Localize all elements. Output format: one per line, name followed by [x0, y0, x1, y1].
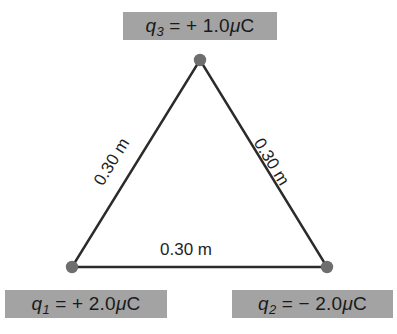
- vertex-dot-q1: [66, 261, 78, 273]
- charge-unit-mu-q1: μ: [116, 293, 127, 314]
- charge-equals-q3: =: [164, 15, 186, 36]
- charge-triangle-figure: q3 = + 1.0μC q1 = + 2.0μC q2 = − 2.0μC 0…: [0, 0, 397, 334]
- charge-subscript-q3: 3: [156, 24, 163, 39]
- charge-value-q1: + 2.0: [72, 293, 116, 314]
- charge-label-q2: q2 = − 2.0μC: [232, 290, 393, 318]
- charge-unit-c-q2: C: [353, 293, 367, 314]
- charge-label-q1: q1 = + 2.0μC: [5, 290, 167, 318]
- charge-subscript-q2: 2: [269, 302, 276, 317]
- vertex-dot-q2: [321, 261, 333, 273]
- charge-symbol-q2: q: [258, 293, 269, 314]
- charge-label-q3: q3 = + 1.0μC: [123, 12, 277, 40]
- charge-unit-mu-q2: μ: [342, 293, 353, 314]
- charge-unit-mu-q3: μ: [230, 15, 241, 36]
- charge-unit-c-q1: C: [126, 293, 140, 314]
- charge-unit-c-q3: C: [240, 15, 254, 36]
- distance-label-bottom: 0.30 m: [160, 240, 212, 260]
- charge-subscript-q1: 1: [42, 302, 49, 317]
- charge-symbol-q1: q: [32, 293, 43, 314]
- triangle-diagram: [0, 0, 397, 334]
- charge-value-q3: + 1.0: [186, 15, 230, 36]
- charge-symbol-q3: q: [146, 15, 157, 36]
- charge-equals-q1: =: [50, 293, 72, 314]
- triangle-left-edge: [72, 60, 200, 267]
- charge-equals-q2: =: [276, 293, 298, 314]
- charge-value-q2: − 2.0: [299, 293, 343, 314]
- vertex-dot-q3: [194, 54, 206, 66]
